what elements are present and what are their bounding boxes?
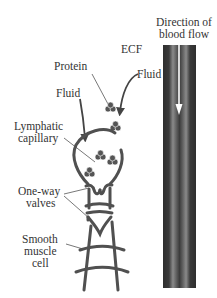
muscle-label-3: cell xyxy=(32,257,49,269)
protein-icon xyxy=(95,150,106,160)
muscle-label-2: muscle xyxy=(24,245,57,257)
leader-lines xyxy=(64,74,108,249)
muscle-label-1: Smooth xyxy=(22,233,58,245)
protein-icon xyxy=(84,167,95,177)
protein-clusters xyxy=(84,102,121,177)
protein-icon xyxy=(105,102,116,112)
lymphatic-diagram: Direction of blood flow ECF Protein Flui… xyxy=(0,0,217,298)
ecf-label: ECF xyxy=(121,43,142,55)
fluid-left-label: Fluid xyxy=(56,87,81,99)
fluid-arrow-left-icon xyxy=(80,99,85,138)
protein-icon xyxy=(110,121,121,131)
protein-icon xyxy=(107,155,118,165)
valves-label-2: valves xyxy=(26,197,56,209)
protein-label: Protein xyxy=(54,60,87,72)
blood-flow-label-2: blood flow xyxy=(159,28,210,40)
fluid-right-label: Fluid xyxy=(137,68,162,80)
lymphatic-label-2: capillary xyxy=(18,132,58,145)
fluid-arrow-right-icon xyxy=(120,74,138,112)
blood-flow-label-1: Direction of xyxy=(156,16,212,28)
blood-vessel xyxy=(163,45,196,288)
